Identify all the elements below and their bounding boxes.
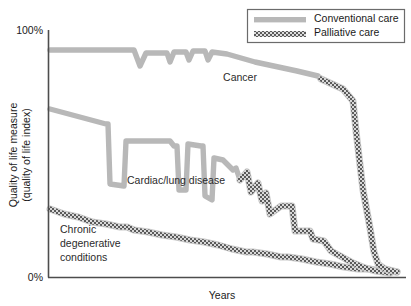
x-axis-title: Years	[209, 289, 235, 301]
y-axis-title-line2: (quality of life index)	[20, 108, 32, 201]
series-label-cancer: Cancer	[223, 71, 257, 83]
series-label-chronic-line3: conditions	[60, 251, 107, 263]
chart-legend: Conventional care Palliative care	[248, 10, 405, 43]
legend-swatch-conventional	[254, 17, 306, 22]
quality-of-life-line-chart: 100% 0% Quality of life measure (quality…	[0, 0, 411, 306]
y-axis-tick-0: 0%	[28, 271, 43, 283]
series-label-cardiac: Cardiac/lung disease	[127, 174, 225, 186]
y-axis-title-line1: Quality of life measure	[7, 103, 19, 208]
series-label-chronic-line1: Chronic	[60, 223, 96, 235]
legend-label-conventional: Conventional care	[314, 12, 399, 24]
y-axis-tick-100: 100%	[16, 24, 43, 36]
chart-figure: 100% 0% Quality of life measure (quality…	[0, 0, 411, 306]
legend-label-palliative: Palliative care	[314, 26, 380, 38]
series-label-chronic-line2: degenerative	[60, 237, 121, 249]
legend-swatch-palliative	[254, 31, 306, 37]
